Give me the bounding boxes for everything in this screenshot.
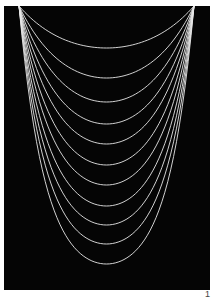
- hanging-curve: [19, 6, 194, 124]
- hanging-curve: [19, 6, 194, 48]
- hanging-curve: [19, 6, 194, 144]
- hanging-curve: [19, 6, 194, 102]
- hanging-curve: [19, 6, 194, 225]
- hanging-curve: [19, 6, 194, 78]
- hanging-curve: [19, 6, 194, 244]
- page-number: 1: [205, 289, 210, 299]
- hanging-curve: [19, 6, 194, 185]
- hanging-curve: [19, 6, 194, 206]
- hanging-curves-figure: [0, 0, 218, 300]
